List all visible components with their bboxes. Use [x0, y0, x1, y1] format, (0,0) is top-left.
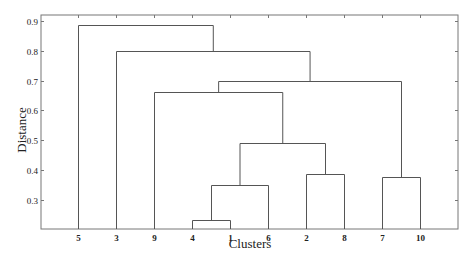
y-tick-label: 0.3: [27, 196, 39, 206]
x-axis-ticks: 53941628710: [76, 15, 425, 243]
dendrogram-chart: 0.30.40.50.60.70.80.9 53941628710: [0, 0, 472, 260]
dendrogram-links: [79, 26, 421, 230]
dendrogram-link: [193, 221, 231, 230]
x-axis-label-wrap: Clusters: [0, 236, 472, 252]
dendrogram-link: [307, 175, 345, 230]
x-axis-label: Clusters: [229, 236, 272, 251]
dendrogram-link: [155, 93, 283, 230]
y-tick-label: 0.7: [27, 77, 39, 87]
dendrogram-link: [212, 186, 269, 230]
dendrogram-link: [240, 144, 326, 186]
y-axis-label: Distance: [14, 100, 30, 160]
plot-border: [41, 15, 458, 229]
dendrogram-link: [383, 178, 421, 230]
dendrogram-link: [219, 82, 402, 178]
y-tick-label: 0.9: [27, 17, 39, 27]
y-tick-label: 0.4: [27, 166, 39, 176]
axes-frame: [41, 15, 458, 229]
dendrogram-link: [117, 52, 311, 230]
y-tick-label: 0.8: [27, 47, 39, 57]
dendrogram-link: [79, 26, 214, 230]
